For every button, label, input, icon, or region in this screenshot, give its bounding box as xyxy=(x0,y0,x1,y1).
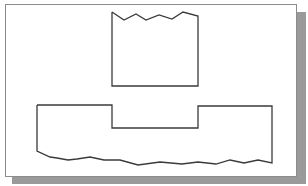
upper-part-outline xyxy=(112,12,198,86)
drawing-canvas xyxy=(0,0,308,186)
lower-base-outline xyxy=(37,105,272,165)
